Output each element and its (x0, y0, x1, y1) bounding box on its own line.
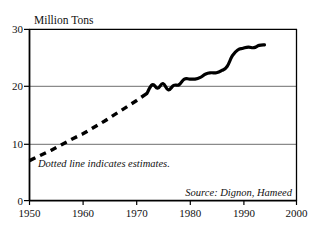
emissions-line-chart: 0 10 20 30 1950 1960 1970 1980 1990 2000… (0, 0, 318, 232)
x-tick-label-1970: 1970 (126, 207, 149, 219)
chart-axis-title: Million Tons (34, 14, 94, 26)
y-tick-label-30: 30 (12, 23, 24, 35)
x-tick-label-2000: 2000 (286, 207, 309, 219)
dotted-line-note: Dotted line indicates estimates. (37, 158, 170, 169)
y-tick-label-20: 20 (12, 80, 24, 92)
x-tick-label-1950: 1950 (19, 207, 42, 219)
y-tick-label-10: 10 (12, 138, 24, 150)
chart-container: 0 10 20 30 1950 1960 1970 1980 1990 2000… (0, 0, 318, 232)
x-tick-label-1980: 1980 (179, 207, 202, 219)
x-tick-label-1960: 1960 (72, 207, 95, 219)
y-tick-label-0: 0 (18, 195, 24, 207)
x-tick-label-1990: 1990 (233, 207, 256, 219)
source-note: Source: Dignon, Hameed (185, 187, 292, 198)
